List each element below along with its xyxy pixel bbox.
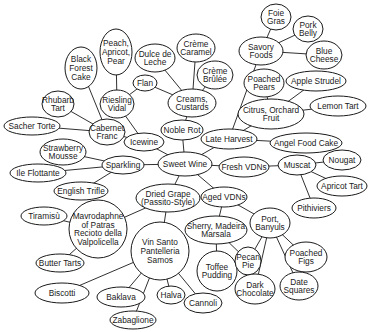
node-label: Fruit: [263, 113, 280, 123]
topic-nodes: Sweet WineNoble RotCreams,CustardsFlanDu…: [4, 4, 367, 329]
node-dark-choc: DarkChocolate: [235, 274, 275, 304]
node-label: Cheese: [310, 54, 339, 64]
node-sherry: Sherry, MadeiraMarsala: [185, 216, 247, 244]
node-savory: SavoryFoods: [239, 37, 283, 65]
node-fresh-vdns: Fresh VDNs: [219, 157, 269, 177]
node-label: Tiramisù: [28, 211, 60, 221]
node-label: Butter Tarts: [39, 258, 81, 268]
node-label: Chocolate: [236, 288, 274, 298]
node-blue-cheese: BlueCheese: [306, 41, 342, 69]
node-label: Pie: [242, 260, 254, 270]
node-label: Custards: [175, 102, 208, 112]
node-late-harvest: Late Harvest: [201, 129, 257, 149]
node-label: Flan: [137, 78, 154, 88]
node-label: Late Harvest: [205, 134, 253, 144]
node-label: Squares: [284, 285, 315, 295]
node-riesling: RieslingVidal: [100, 90, 134, 118]
node-black-forest: BlackForestCake: [65, 47, 97, 89]
node-cabernet: CabernetFranc: [89, 119, 125, 145]
node-label: Angel Food Cake: [274, 138, 338, 148]
node-poached-pears: PoachedPears: [244, 69, 284, 97]
node-label: Mousse: [48, 151, 77, 161]
node-label: Cannoli: [189, 298, 217, 308]
node-label: Banyuls: [255, 222, 285, 232]
node-date-squares: DateSquares: [280, 272, 318, 300]
node-angel-food: Angel Food Cake: [270, 133, 342, 153]
node-label: (Passito-Style): [141, 197, 195, 207]
node-label: Vidal: [108, 103, 126, 113]
node-foie-gras: FoieGras: [261, 4, 291, 30]
node-pecan: PecanPie: [235, 247, 261, 275]
node-tiramisu: Tiramisù: [21, 207, 67, 225]
node-sacher: Sacher Torte: [4, 117, 60, 135]
node-dulce: Dulce deLeche: [135, 44, 175, 72]
node-label: Tart: [51, 103, 66, 113]
node-label: Halva: [160, 290, 182, 300]
node-mavrodaphne: Mavrodaphneof PatrasRecioto dellaValpoli…: [69, 200, 127, 258]
node-label: Apple Strudel: [291, 76, 341, 86]
node-label: Gras: [267, 16, 285, 26]
node-label: Samos: [147, 255, 173, 265]
node-dried-grape: Dried Grape(Passito-Style): [136, 184, 200, 212]
node-label: Sparkling: [106, 160, 141, 170]
node-ile-flottante: Ile Flottante: [10, 164, 66, 182]
node-label: Icewine: [130, 137, 159, 147]
node-label: Sweet Wine: [163, 159, 208, 169]
node-label: Valpolicella: [77, 237, 119, 247]
node-toffee: ToffeePudding: [197, 251, 237, 291]
node-halva: Halva: [157, 286, 185, 304]
node-label: Aged VDNs: [202, 192, 245, 202]
node-label: Apricot Tart: [321, 181, 364, 191]
node-label: Leche: [144, 57, 167, 67]
node-label: Baklava: [106, 292, 136, 302]
node-label: Muscat: [284, 160, 311, 170]
node-label: Nougat: [329, 155, 356, 165]
node-apricot-tart: Apricot Tart: [317, 176, 367, 196]
node-lemon-tart: Lemon Tart: [310, 96, 366, 116]
node-biscotti: Biscotti: [35, 283, 89, 303]
node-label: Marsala: [201, 229, 231, 239]
node-label: Foods: [249, 50, 272, 60]
node-creme-caramel: CrèmeCaramel: [177, 34, 215, 62]
node-zabaglione: Zabaglione: [110, 311, 156, 329]
node-cannoli: Cannoli: [184, 293, 222, 313]
node-poached-figs: PoachedFigs: [285, 242, 327, 272]
node-pithiviers: Pithiviers: [292, 198, 336, 218]
node-label: Franc: [96, 131, 117, 141]
node-label: Fresh VDNs: [221, 162, 266, 172]
node-creme-brulee: CrèmeBrûlée: [197, 61, 233, 89]
node-label: Pears: [253, 82, 275, 92]
node-sweet-wine: Sweet Wine: [158, 152, 212, 176]
node-noble-rot: Noble Rot: [161, 120, 203, 140]
node-muscat: Muscat: [278, 155, 316, 175]
node-label: Pudding: [202, 270, 233, 280]
node-strawberry: StrawberryMousse: [40, 139, 86, 165]
node-label: Brûlée: [203, 74, 227, 84]
node-creams: Creams,Custards: [168, 89, 216, 117]
node-label: Pithiviers: [297, 203, 331, 213]
node-label: Ile Flottante: [16, 168, 60, 178]
node-rhubarb: RhubarbTart: [42, 91, 74, 117]
node-label: Biscotti: [49, 288, 76, 298]
node-apple-strudel: Apple Strudel: [286, 71, 346, 91]
node-butter-tarts: Butter Tarts: [36, 254, 84, 272]
node-peach: Peach,Apricot,Pear: [100, 29, 132, 75]
node-label: Sacher Torte: [9, 121, 56, 131]
node-nougat: Nougat: [323, 150, 361, 170]
node-label: Zabaglione: [112, 315, 153, 325]
node-label: Belly: [299, 28, 318, 38]
sweet-wine-mind-map: Sweet WineNoble RotCreams,CustardsFlanDu…: [0, 0, 369, 332]
node-flan: Flan: [133, 75, 157, 91]
node-sparkling: Sparkling: [102, 156, 144, 174]
node-icewine: Icewine: [124, 133, 164, 151]
node-label: Caramel: [180, 47, 212, 57]
node-vin-santo: Vin SantoPantelleriaSamos: [131, 222, 189, 280]
node-label: English Trifle: [57, 186, 105, 196]
node-aged-vdns: Aged VDNs: [201, 187, 247, 207]
node-pork-belly: PorkBelly: [293, 16, 323, 42]
node-label: Noble Rot: [164, 125, 202, 135]
node-citrus: Citrus, OrchardFruit: [238, 99, 304, 129]
node-label: Cake: [71, 72, 91, 82]
node-label: Lemon Tart: [317, 101, 359, 111]
node-english-trifle: English Trifle: [54, 182, 108, 200]
